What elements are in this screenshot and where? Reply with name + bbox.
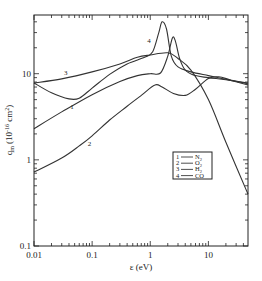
curve-labels: 1234 [64,37,151,148]
curve-number-label: 2 [88,140,92,148]
curve-number-label: 1 [70,103,74,111]
x-tick-label: 0.1 [87,250,98,260]
curve-number-label: 3 [64,69,68,77]
curve-n2 [34,37,248,129]
plot-frame [34,15,248,246]
cross-section-chart: 0.010.11100.1110 1234 ε (eV) qm(10-16 cm… [0,0,262,281]
x-tick-label: 10 [204,250,214,260]
legend: 1N22O23H24CO [173,152,212,179]
y-tick-label: 0.1 [20,241,31,251]
y-tick-label: 10 [22,69,32,79]
axis-ticks [34,15,248,246]
curve-number-label: 4 [147,37,151,45]
x-tick-label: 0.01 [26,250,42,260]
curve-co [34,22,248,100]
curves [34,22,248,194]
y-axis-title: qm(10-16 cm2) [4,105,15,155]
curve-o2 [34,77,248,172]
svg-text:CO: CO [195,172,204,179]
y-tick-label: 1 [27,155,32,165]
x-tick-label: 1 [148,250,153,260]
x-axis-title: ε (eV) [130,262,153,272]
